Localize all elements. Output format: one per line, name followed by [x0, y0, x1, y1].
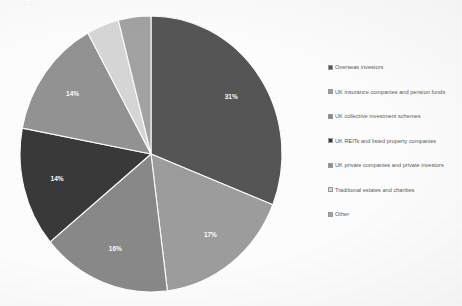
chart-legend: Overseas investorsUK insurance companies… [328, 64, 460, 236]
pie-slice-value-label: 16% [109, 245, 122, 252]
legend-item: UK REITs and listed property companies [328, 138, 460, 145]
legend-item-label: UK insurance companies and pension funds [335, 89, 445, 96]
legend-swatch-icon [328, 114, 333, 119]
legend-swatch-icon [328, 163, 333, 168]
pie-svg: 31%17%16%14%14%4%4% [17, 14, 285, 292]
pie-slice-value-label: 17% [204, 231, 217, 238]
legend-item-label: Other [335, 211, 349, 218]
pie-slice-value-label: 31% [225, 93, 238, 100]
legend-swatch-icon [328, 65, 333, 70]
legend-item: Traditional estates and charities [328, 187, 460, 194]
legend-item: Overseas investors [328, 64, 460, 71]
legend-swatch-icon [328, 187, 333, 192]
legend-item: UK insurance companies and pension funds [328, 89, 460, 96]
legend-item: UK collective investment schemes [328, 113, 460, 120]
pie-chart-plot: 31%17%16%14%14%4%4% [17, 14, 285, 292]
legend-item-label: Overseas investors [335, 64, 383, 71]
legend-item-label: UK private companies and private investo… [335, 162, 444, 169]
pie-slices-group [20, 16, 282, 292]
legend-item: UK private companies and private investo… [328, 162, 460, 169]
legend-item: Other [328, 211, 460, 218]
legend-item-label: Traditional estates and charities [335, 187, 414, 194]
legend-item-label: UK collective investment schemes [335, 113, 421, 120]
legend-item-label: UK REITs and listed property companies [335, 138, 436, 145]
legend-swatch-icon [328, 212, 333, 217]
pie-slice-value-label: 14% [66, 90, 79, 97]
pie-chart-figure: 31%17%16%14%14%4%4% Overseas investorsUK… [0, 0, 462, 306]
legend-swatch-icon [328, 89, 333, 94]
pie-slice-value-label: 14% [51, 175, 64, 182]
legend-swatch-icon [328, 138, 333, 143]
